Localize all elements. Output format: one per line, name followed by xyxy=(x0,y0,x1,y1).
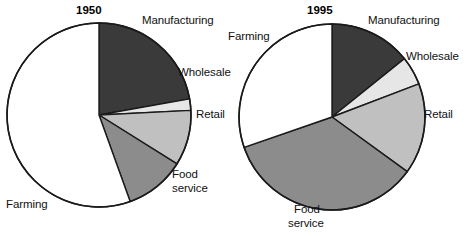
label-wholesale-1950: Wholesale xyxy=(178,66,231,79)
label-food-service-1950-line1: Food xyxy=(172,168,198,181)
label-wholesale-1995: Wholesale xyxy=(406,50,459,63)
chart-title-1950: 1950 xyxy=(76,4,102,16)
chart-canvas: 1950 Manufacturing Wholesale Retail Food… xyxy=(0,0,468,236)
pie-chart-1995 xyxy=(239,24,425,210)
label-retail-1995: Retail xyxy=(424,108,453,121)
label-retail-1950: Retail xyxy=(196,108,225,121)
label-manufacturing-1950: Manufacturing xyxy=(142,14,214,27)
label-food-service-1995-line1: Food xyxy=(294,203,320,216)
label-farming-1950: Farming xyxy=(6,198,47,211)
label-manufacturing-1995: Manufacturing xyxy=(368,14,440,27)
label-farming-1995: Farming xyxy=(228,30,269,43)
label-food-service-1995-line2: service xyxy=(288,217,324,230)
pie-chart-1950 xyxy=(7,23,191,207)
chart-title-1995: 1995 xyxy=(307,4,333,16)
label-food-service-1950-line2: service xyxy=(172,182,208,195)
